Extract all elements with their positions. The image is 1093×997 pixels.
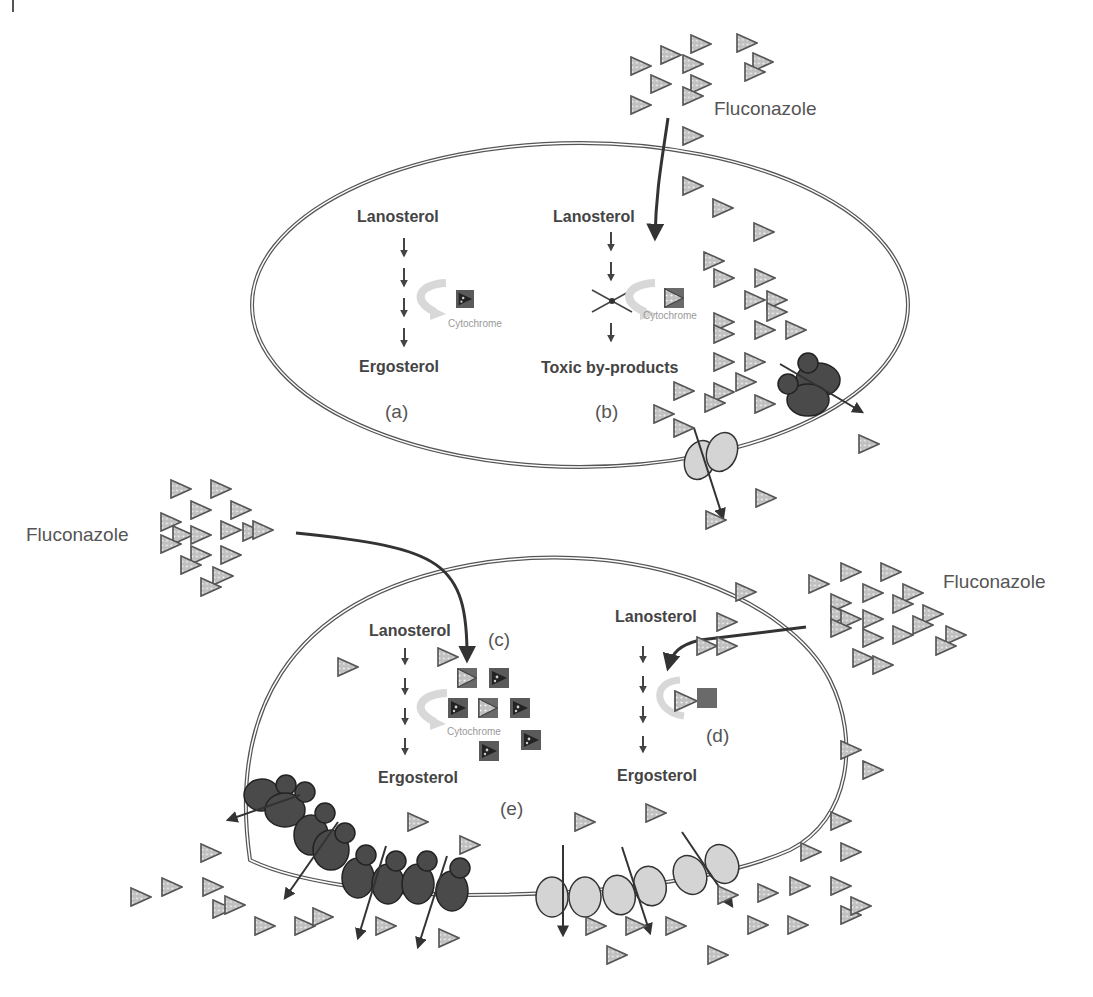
enzyme-icon [456,290,474,308]
cytochrome-label: Cytochrome [643,310,697,321]
fluconazole-resistance-diagram: Lanosterol Cytochrome Ergosterol (a) Lan… [0,0,1093,997]
drug-entry-arrow [296,533,467,660]
ergosterol-label: Ergosterol [359,358,439,375]
efflux-pump-dark [778,353,862,416]
panel-b-label: (b) [595,401,618,422]
panel-d: Lanosterol (d) Ergosterol [615,608,806,784]
bottom-cell: Lanosterol Cytochrome Ergosterol (c) Lan… [228,533,846,947]
cell-membrane-inner [252,143,908,467]
fluconazole-molecules [131,34,966,964]
altered-enzyme-icon [697,688,717,708]
lanosterol-label: Lanosterol [357,208,439,225]
cycle-arrow-icon [421,693,447,722]
panel-a: Lanosterol Cytochrome Ergosterol (a) [357,208,502,422]
panel-c-label: (c) [488,629,510,650]
ergosterol-label: Ergosterol [378,769,458,786]
cytochrome-label: Cytochrome [447,726,501,737]
top-cell: Lanosterol Cytochrome Ergosterol (a) Lan… [252,118,908,518]
panel-e-label: (e) [500,798,523,819]
panel-d-label: (d) [706,725,729,746]
drug-entry-arrow [655,118,668,238]
lanosterol-label: Lanosterol [553,208,635,225]
panel-c: Lanosterol Cytochrome Ergosterol (c) [296,533,541,786]
cytochrome-label: Cytochrome [448,318,502,329]
efflux-pumps-light [536,832,745,935]
toxic-byproducts-label: Toxic by-products [541,359,679,376]
fluconazole-label-top: Fluconazole [714,98,816,119]
inhibited-enzyme-icon [664,288,684,308]
panel-a-label: (a) [385,401,408,422]
fluconazole-label-right: Fluconazole [943,571,1045,592]
efflux-pump-light [679,428,743,518]
drug-entry-arrow [668,627,806,668]
ergosterol-label: Ergosterol [617,767,697,784]
lanosterol-label: Lanosterol [369,622,451,639]
lanosterol-label: Lanosterol [615,608,697,625]
cell-membrane-outer [252,143,908,467]
fluconazole-label-left: Fluconazole [26,524,128,545]
